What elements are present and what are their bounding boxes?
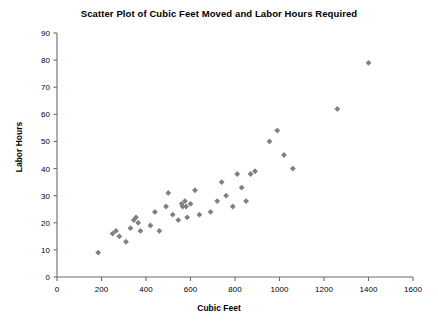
y-tick-label: 70 bbox=[41, 83, 50, 92]
data-point bbox=[223, 193, 229, 199]
data-point bbox=[128, 225, 134, 231]
data-point bbox=[230, 204, 236, 210]
y-tick-label: 40 bbox=[41, 165, 50, 174]
y-tick-label: 20 bbox=[41, 219, 50, 228]
y-tick-label: 90 bbox=[41, 29, 50, 38]
data-point bbox=[290, 166, 296, 172]
data-point bbox=[208, 209, 214, 215]
data-point bbox=[135, 220, 141, 226]
data-point bbox=[138, 228, 144, 234]
y-tick-label: 80 bbox=[41, 56, 50, 65]
data-points bbox=[95, 60, 371, 256]
data-point bbox=[234, 171, 240, 177]
data-point bbox=[175, 217, 181, 223]
x-axis-ticks: 02004006008001000120014001600 bbox=[55, 277, 423, 294]
scatter-chart: Scatter Plot of Cubic Feet Moved and Lab… bbox=[0, 0, 438, 324]
plot-area: 0102030405060708090020040060080010001200… bbox=[0, 0, 438, 324]
y-tick-label: 60 bbox=[41, 110, 50, 119]
data-point bbox=[239, 185, 245, 191]
data-point bbox=[267, 139, 273, 145]
x-tick-label: 400 bbox=[139, 285, 153, 294]
data-point bbox=[243, 198, 249, 204]
y-axis-ticks: 0102030405060708090 bbox=[41, 29, 57, 282]
x-tick-label: 1400 bbox=[360, 285, 378, 294]
data-point bbox=[152, 209, 158, 215]
data-point bbox=[170, 212, 176, 218]
data-point bbox=[148, 223, 154, 229]
x-tick-label: 0 bbox=[55, 285, 60, 294]
data-point bbox=[366, 60, 372, 66]
data-point bbox=[163, 204, 169, 210]
data-point bbox=[334, 106, 340, 112]
data-point bbox=[156, 228, 162, 234]
x-tick-label: 600 bbox=[184, 285, 198, 294]
x-tick-label: 200 bbox=[95, 285, 109, 294]
axes bbox=[57, 33, 413, 277]
data-point bbox=[184, 214, 190, 220]
data-point bbox=[281, 152, 287, 158]
data-point bbox=[214, 198, 220, 204]
data-point bbox=[95, 250, 101, 256]
data-point bbox=[123, 239, 129, 245]
y-tick-label: 30 bbox=[41, 192, 50, 201]
y-tick-label: 10 bbox=[41, 246, 50, 255]
y-tick-label: 0 bbox=[46, 273, 51, 282]
data-point bbox=[248, 171, 254, 177]
x-tick-label: 1600 bbox=[404, 285, 422, 294]
x-tick-label: 1200 bbox=[315, 285, 333, 294]
data-point bbox=[165, 190, 171, 196]
data-point bbox=[197, 212, 203, 218]
data-point bbox=[192, 187, 198, 193]
data-point bbox=[219, 179, 225, 185]
data-point bbox=[188, 201, 194, 207]
x-tick-label: 800 bbox=[228, 285, 242, 294]
data-point bbox=[274, 128, 280, 134]
data-point bbox=[116, 233, 122, 239]
data-point bbox=[183, 204, 189, 210]
data-point bbox=[252, 168, 258, 174]
x-tick-label: 1000 bbox=[271, 285, 289, 294]
y-tick-label: 50 bbox=[41, 137, 50, 146]
